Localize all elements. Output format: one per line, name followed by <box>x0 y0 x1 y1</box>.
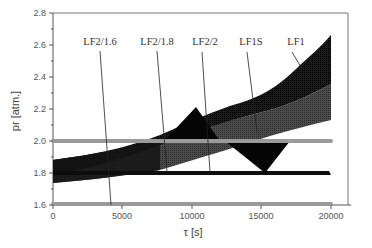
y-axis <box>49 13 53 205</box>
label-lf1s: LF1S <box>239 36 263 47</box>
y-tick-label: 2.0 <box>33 136 46 146</box>
y-tick-label: 1.8 <box>33 168 46 178</box>
x-tick-label: 10000 <box>179 211 204 221</box>
x-tick-label: 20000 <box>318 211 343 221</box>
x-tick-label: 0 <box>50 211 55 221</box>
pressure-chart: 2.8 2.6 2.4 2.2 2.0 1.8 1.6 0 5000 10000… <box>0 0 372 248</box>
x-tick-label: 15000 <box>248 211 273 221</box>
y-axis-title: pr [atm.] <box>9 91 21 131</box>
label-lf2-2: LF2/2 <box>192 36 218 47</box>
label-lf1: LF1 <box>287 36 305 47</box>
y-tick-label: 2.6 <box>33 40 46 50</box>
label-lf2-1-6: LF2/1.6 <box>83 36 117 47</box>
y-tick-label: 2.4 <box>33 72 46 82</box>
label-lf2-1-8: LF2/1.8 <box>140 36 174 47</box>
x-axis-title: τ [s] <box>183 226 202 238</box>
x-tick-label: 5000 <box>112 211 132 221</box>
y-tick-label: 1.6 <box>33 200 46 210</box>
y-tick-label: 2.8 <box>33 8 46 18</box>
series-lf2-1-8-line <box>53 171 331 175</box>
y-tick-label: 2.2 <box>33 104 46 114</box>
